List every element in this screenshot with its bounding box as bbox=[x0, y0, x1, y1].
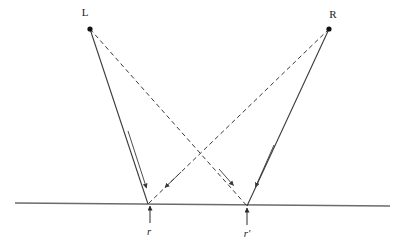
reflecting-surface-line bbox=[15, 203, 390, 206]
ray-arrowhead-L-to-foot-right bbox=[219, 169, 234, 186]
source-label-R: R bbox=[329, 8, 337, 20]
foot-label-r: r bbox=[147, 226, 152, 237]
ray-line-L-to-foot-left bbox=[90, 29, 148, 204]
ray-diagram-figure: L R r r′ bbox=[0, 0, 402, 240]
ray-diagram-canvas: L R r r′ bbox=[0, 0, 402, 240]
ray-arrowhead-R-to-foot-left bbox=[165, 172, 181, 188]
source-point-R-dot bbox=[326, 26, 331, 31]
source-point-L-dot bbox=[87, 26, 92, 31]
ray-arrowhead-R-to-foot-right bbox=[256, 145, 275, 187]
ray-line-L-to-foot-right bbox=[90, 29, 247, 206]
source-label-L: L bbox=[82, 6, 89, 18]
foot-label-r-prime: r′ bbox=[244, 228, 251, 239]
ray-arrowhead-L-to-foot-left bbox=[128, 131, 147, 188]
